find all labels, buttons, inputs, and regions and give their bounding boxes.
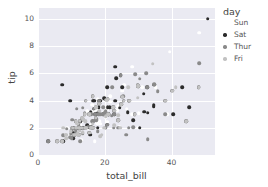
gridline-vertical [105, 8, 106, 155]
legend-marker-icon [219, 21, 231, 24]
legend-item-sun[interactable]: Sun [219, 17, 268, 29]
data-point [120, 102, 124, 106]
data-point [96, 129, 100, 133]
data-point [206, 17, 210, 21]
data-point [110, 85, 114, 89]
data-point [184, 119, 188, 123]
data-point [130, 65, 134, 69]
data-point [60, 140, 64, 144]
data-point [81, 106, 85, 110]
data-point [141, 85, 145, 89]
data-point [142, 92, 146, 96]
legend-item-label: Sun [234, 19, 248, 27]
data-point [133, 112, 137, 116]
data-point [197, 62, 201, 66]
legend-item-sat[interactable]: Sat [219, 29, 268, 41]
data-point [180, 85, 184, 89]
data-point [55, 140, 59, 144]
data-point [137, 111, 141, 115]
data-point [163, 99, 167, 103]
legend-item-thur[interactable]: Thur [219, 41, 268, 53]
data-point [93, 139, 97, 143]
data-point [145, 85, 149, 89]
data-point [124, 133, 128, 137]
legend-marker-icon [219, 33, 231, 36]
data-point [197, 85, 201, 89]
data-point [156, 90, 160, 94]
data-point [69, 130, 73, 134]
x-tick-label: 0 [36, 159, 41, 167]
data-point [152, 103, 156, 107]
x-tick-label: 20 [100, 159, 110, 167]
data-point [99, 122, 103, 126]
data-point [118, 126, 122, 130]
data-point [94, 116, 98, 120]
legend: day SunSatThurFri [219, 6, 268, 65]
legend-marker-icon [219, 45, 231, 48]
data-point [163, 112, 167, 116]
data-point [152, 82, 156, 86]
gridline-horizontal [38, 46, 215, 47]
legend-item-fri[interactable]: Fri [219, 53, 268, 65]
data-point [81, 130, 85, 134]
y-tick-label: 0 [4, 151, 34, 159]
data-point [81, 118, 85, 122]
data-point [97, 109, 101, 113]
data-point [76, 131, 80, 135]
data-point [80, 126, 84, 130]
data-point [60, 83, 64, 87]
data-point [168, 50, 172, 54]
data-point [127, 99, 131, 103]
legend-item-label: Fri [234, 55, 243, 63]
data-point [110, 114, 114, 118]
gridline-horizontal [38, 73, 215, 74]
data-point [118, 106, 122, 110]
data-point [136, 83, 140, 87]
data-point [68, 99, 72, 103]
data-point [111, 106, 115, 110]
data-point [101, 105, 105, 109]
legend-marker-icon [219, 57, 231, 60]
data-point [91, 126, 95, 130]
data-point [132, 125, 136, 129]
data-point [102, 126, 106, 130]
y-tick-label: 10 [4, 15, 34, 23]
data-point [146, 111, 150, 115]
data-point [151, 62, 155, 66]
data-point [95, 106, 99, 110]
data-point [84, 99, 88, 103]
data-point [98, 135, 102, 139]
data-point [88, 131, 92, 135]
data-point [138, 77, 142, 81]
y-tick-label: 2 [4, 124, 34, 132]
data-point [188, 106, 192, 110]
data-point [91, 95, 95, 99]
x-tick-label: 40 [167, 159, 177, 167]
data-point [88, 112, 92, 116]
data-point [127, 126, 131, 130]
legend-item-label: Sat [234, 31, 246, 39]
data-point [75, 107, 79, 111]
gridline-horizontal [38, 19, 215, 20]
legend-entries: SunSatThurFri [219, 17, 268, 65]
y-axis-label: tip [6, 48, 17, 108]
data-point [61, 126, 65, 130]
gridline-vertical [172, 8, 173, 155]
data-point [114, 65, 118, 69]
data-point [83, 126, 87, 130]
data-point [126, 110, 130, 114]
data-point [198, 31, 202, 35]
data-point [131, 118, 135, 122]
data-point [138, 126, 142, 130]
data-point [170, 89, 174, 93]
x-axis-label: total_bill [38, 170, 215, 181]
data-point [127, 85, 131, 89]
data-point [104, 115, 108, 119]
data-point [172, 112, 176, 116]
data-point [144, 72, 148, 76]
data-point [146, 137, 150, 141]
data-point [116, 118, 120, 122]
data-point [105, 85, 109, 89]
data-point [91, 122, 95, 126]
data-point [112, 109, 116, 113]
